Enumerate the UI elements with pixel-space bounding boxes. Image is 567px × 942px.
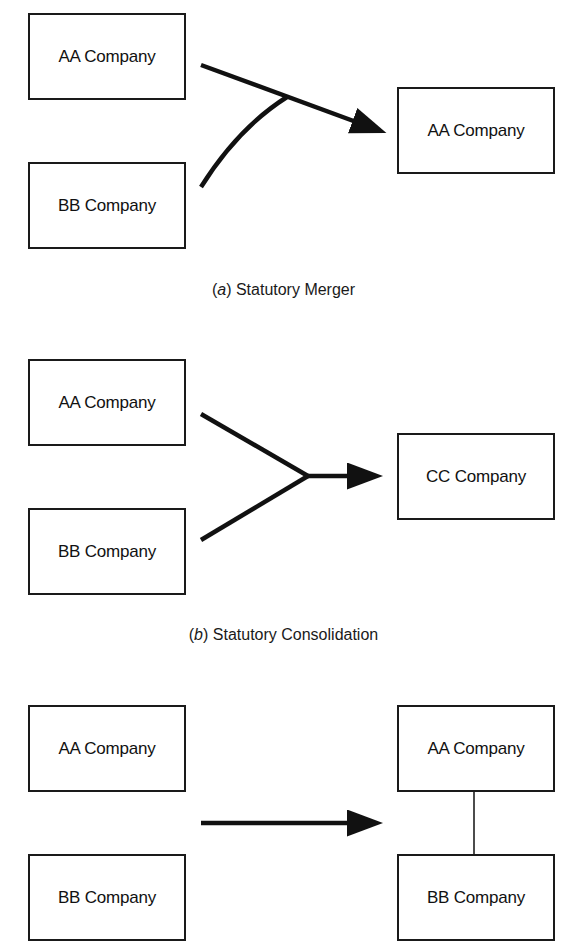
merger-arrow-branch [201, 97, 287, 187]
panel-a-input-bb: BB Company [28, 162, 186, 249]
company-label: AA Company [58, 739, 155, 759]
company-label: AA Company [58, 393, 155, 413]
panel-c-input-aa: AA Company [28, 705, 186, 792]
caption-text: Statutory Consolidation [208, 626, 378, 643]
merger-arrow-main [201, 65, 378, 130]
company-label: BB Company [58, 888, 156, 908]
company-label: BB Company [427, 888, 525, 908]
panel-a-result-aa: AA Company [397, 87, 555, 174]
company-label: AA Company [58, 47, 155, 67]
caption-letter: b [194, 626, 203, 643]
panel-b-input-bb: BB Company [28, 508, 186, 595]
consolidation-line-bb [201, 476, 308, 540]
company-label: AA Company [427, 121, 524, 141]
panel-a-caption: (a) Statutory Merger [0, 281, 567, 299]
panel-b-caption: (b) Statutory Consolidation [0, 626, 567, 644]
consolidation-line-aa [201, 414, 308, 476]
company-label: BB Company [58, 196, 156, 216]
panel-a-input-aa: AA Company [28, 13, 186, 100]
panel-c-input-bb: BB Company [28, 854, 186, 941]
company-label: BB Company [58, 542, 156, 562]
panel-c-result-bb: BB Company [397, 854, 555, 941]
caption-text: Statutory Merger [231, 281, 355, 298]
panel-c-result-aa: AA Company [397, 705, 555, 792]
company-label: AA Company [427, 739, 524, 759]
panel-b-input-aa: AA Company [28, 359, 186, 446]
caption-letter: a [217, 281, 226, 298]
panel-b-result-cc: CC Company [397, 433, 555, 520]
company-label: CC Company [426, 467, 526, 487]
